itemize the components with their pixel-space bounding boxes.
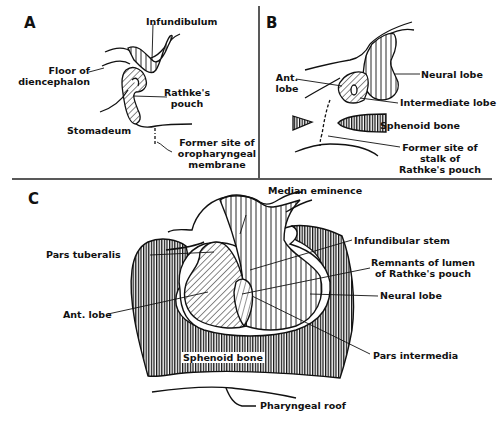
label-ant-line2: lobe bbox=[270, 83, 304, 94]
label-stalk-line3: Rathke's pouch bbox=[390, 164, 490, 175]
panel-a-letter: A bbox=[24, 14, 36, 32]
panel-c-drawing bbox=[108, 192, 378, 406]
label-ant-lobe-c: Ant. lobe bbox=[63, 309, 112, 320]
label-intermediate-lobe: Intermediate lobe bbox=[400, 97, 496, 108]
panel-b-drawing bbox=[293, 22, 420, 156]
pituitary-development-figure: A B C Infundibulum Floor of diencephalon… bbox=[0, 0, 502, 428]
label-infundibulum: Infundibulum bbox=[146, 16, 218, 27]
panel-b-letter: B bbox=[266, 14, 277, 32]
label-median-eminence: Median eminence bbox=[268, 185, 362, 196]
label-stomadeum: Stomadeum bbox=[67, 125, 131, 136]
label-former-site-line1: Former site of bbox=[172, 137, 262, 148]
label-pharyngeal-roof: Pharyngeal roof bbox=[260, 400, 346, 411]
label-sphenoid-bone-c: Sphenoid bone bbox=[181, 352, 265, 363]
label-rathke-line2: pouch bbox=[158, 98, 216, 109]
label-sphenoid-bone-b: Sphenoid bone bbox=[380, 120, 460, 131]
label-remnants-line1: Remnants of lumen bbox=[368, 257, 478, 268]
label-stalk-line1: Former site of bbox=[390, 142, 490, 153]
label-floor-line2: diencephalon bbox=[18, 76, 90, 87]
label-rathke-line1: Rathke's bbox=[158, 87, 216, 98]
label-remnants-line2: of Rathke's pouch bbox=[368, 268, 478, 279]
label-stalk-line2: stalk of bbox=[390, 153, 490, 164]
label-pars-intermedia: Pars intermedia bbox=[373, 350, 458, 361]
label-pars-tuberalis: Pars tuberalis bbox=[46, 249, 121, 260]
panel-c-letter: C bbox=[28, 190, 39, 208]
label-floor-line1: Floor of bbox=[18, 65, 90, 76]
label-former-site-line2: oropharyngeal bbox=[172, 148, 262, 159]
label-former-site-line3: membrane bbox=[172, 159, 262, 170]
label-ant-line1: Ant. bbox=[270, 72, 304, 83]
label-neural-lobe-c: Neural lobe bbox=[380, 290, 442, 301]
label-neural-lobe-b: Neural lobe bbox=[421, 69, 483, 80]
label-infundibular-stem: Infundibular stem bbox=[354, 235, 450, 246]
